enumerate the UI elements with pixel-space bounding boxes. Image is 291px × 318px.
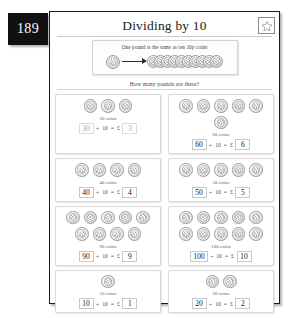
ten-pence-coin-icon (214, 163, 228, 177)
pound-symbol: £ (229, 301, 233, 307)
ten-pence-coin-icon (128, 227, 142, 241)
page-title: Dividing by 10 (55, 17, 274, 35)
equation-row: 20÷10=£2 (172, 298, 270, 309)
dividend-field[interactable]: 30 (79, 123, 94, 134)
dividend-field[interactable]: 50 (192, 187, 207, 198)
answer-field[interactable]: 6 (235, 139, 250, 150)
question-row: 40 coins40÷10=£450 coins50÷10=£5 (55, 158, 274, 202)
ten-pence-coin-icon (206, 275, 220, 289)
divide-symbol: ÷ (210, 253, 214, 259)
ten-pence-coin-icon (136, 211, 150, 225)
pound-symbol: £ (116, 125, 120, 131)
dividend-field[interactable]: 60 (192, 139, 207, 150)
ten-pence-coin-stack (147, 55, 223, 68)
coin-count-label: 50 coins (213, 180, 230, 185)
question-prompt: How many pounds are there? (55, 81, 274, 90)
pound-symbol: £ (116, 189, 120, 195)
divide-symbol: ÷ (96, 301, 100, 307)
banner-text: One pound is the same as ten 10p coins (97, 44, 233, 51)
answer-field[interactable]: 4 (122, 187, 137, 198)
ten-pence-coin-icon (119, 99, 133, 113)
ten-pence-coin-icon (93, 227, 107, 241)
info-banner: One pound is the same as ten 10p coins (92, 40, 238, 75)
divide-symbol: ÷ (96, 253, 100, 259)
equation-row: 60÷10=£6 (172, 139, 270, 150)
dividend-field[interactable]: 10 (79, 298, 94, 309)
ten-pence-coin-icon (179, 227, 193, 241)
title-divider (57, 36, 272, 37)
page-number-badge: 189 (8, 13, 48, 45)
ten-pence-coin-icon (232, 227, 246, 241)
answer-field[interactable]: 3 (122, 123, 137, 134)
dividend-field[interactable]: 40 (79, 187, 94, 198)
pound-symbol: £ (229, 189, 233, 195)
ten-pence-coin-icon (128, 163, 142, 177)
sticker-box[interactable] (258, 17, 275, 34)
ten-pence-coin-icon (214, 211, 228, 225)
pound-coin-icon (106, 55, 120, 69)
page-number-text: 189 (17, 21, 39, 37)
equation-row: 30÷10=£3 (59, 123, 157, 134)
dividend-field[interactable]: 20 (192, 298, 207, 309)
question-box: 50 coins50÷10=£5 (168, 158, 274, 202)
equals-symbol: = (110, 189, 114, 195)
answer-field[interactable]: 2 (235, 298, 250, 309)
equation-row: 90÷10=£9 (59, 251, 157, 262)
coin-group (178, 275, 264, 289)
equation-row: 50÷10=£5 (172, 187, 270, 198)
equals-symbol: = (110, 253, 114, 259)
divisor-value: 10 (102, 301, 109, 307)
pound-symbol: £ (116, 253, 120, 259)
ten-pence-coin-icon (197, 99, 211, 113)
coin-group (175, 211, 267, 241)
divisor-value: 10 (102, 253, 109, 259)
ten-pence-coin-icon (101, 211, 115, 225)
ten-pence-coin-icon (179, 99, 193, 113)
coin-count-label: 30 coins (100, 116, 117, 121)
ten-pence-coin-icon (214, 116, 228, 130)
question-grid: 30 coins30÷10=£360 coins60÷10=£640 coins… (55, 94, 274, 313)
question-row: 30 coins30÷10=£360 coins60÷10=£6 (55, 94, 274, 154)
ten-pence-coin-icon (75, 163, 89, 177)
worksheet-page: 189 Dividing by 10 One pound is the same… (0, 0, 291, 318)
divide-symbol: ÷ (209, 189, 213, 195)
equation-row: 10÷10=£1 (59, 298, 157, 309)
ten-pence-coin-icon (93, 163, 107, 177)
divide-symbol: ÷ (209, 142, 213, 148)
ten-pence-coin-icon (249, 163, 263, 177)
equals-symbol: = (110, 301, 114, 307)
coin-group (65, 275, 151, 289)
ten-pence-coin-icon (101, 99, 115, 113)
answer-field[interactable]: 10 (237, 251, 252, 262)
ten-pence-coin-icon (197, 227, 211, 241)
ten-pence-coin-icon (210, 55, 223, 68)
divisor-value: 10 (102, 189, 109, 195)
title-row: Dividing by 10 (55, 17, 274, 35)
prompt-divider (57, 89, 272, 90)
dividend-field[interactable]: 90 (79, 251, 94, 262)
answer-field[interactable]: 1 (122, 298, 137, 309)
answer-field[interactable]: 9 (122, 251, 137, 262)
equals-symbol: = (223, 142, 227, 148)
pound-symbol: £ (229, 142, 233, 148)
divisor-value: 10 (215, 189, 222, 195)
question-box: 30 coins30÷10=£3 (55, 94, 161, 154)
ten-pence-coin-icon (197, 163, 211, 177)
ten-pence-coin-icon (119, 211, 133, 225)
dividend-field[interactable]: 100 (190, 251, 207, 262)
ten-pence-coin-icon (75, 227, 89, 241)
ten-pence-coin-icon (66, 211, 80, 225)
question-box: 40 coins40÷10=£4 (55, 158, 161, 202)
divide-symbol: ÷ (209, 301, 213, 307)
ten-pence-coin-icon (223, 275, 237, 289)
coin-count-label: 60 coins (213, 132, 230, 137)
equals-symbol: = (223, 189, 227, 195)
ten-pence-coin-icon (249, 99, 263, 113)
equation-row: 100÷10=£10 (172, 251, 270, 262)
answer-field[interactable]: 5 (235, 187, 250, 198)
coin-count-label: 10 coins (100, 291, 117, 296)
ten-pence-coin-icon (84, 99, 98, 113)
question-row: 90 coins90÷10=£9100 coins100÷10=£10 (55, 206, 274, 266)
divisor-value: 10 (215, 142, 222, 148)
ten-pence-coin-icon (249, 227, 263, 241)
